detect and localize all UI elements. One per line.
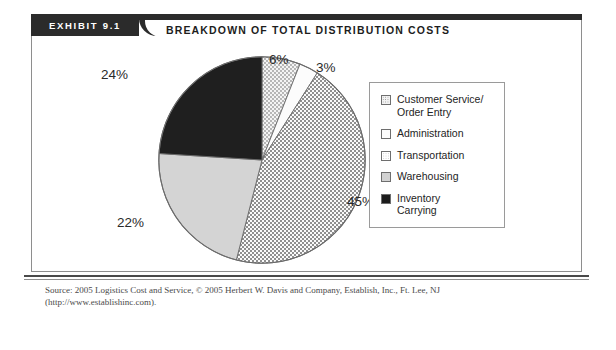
- pie-slices: [159, 57, 365, 263]
- legend-swatch-inventory-carrying-icon: [381, 194, 391, 204]
- legend-label-administration: Administration: [397, 127, 464, 140]
- pie-label-inventory-carrying: 24%: [101, 67, 128, 82]
- exhibit-tab-label: EXHIBIT 9.1: [49, 20, 121, 31]
- pie-slice: [159, 57, 262, 160]
- legend-swatch-administration-icon: [381, 129, 391, 139]
- legend-label-transportation: Transportation: [397, 149, 464, 162]
- chart-legend: Customer Service/ Order Entry Administra…: [369, 82, 505, 228]
- exhibit-bottom-rule-thin: [24, 279, 589, 280]
- legend-item: Administration: [381, 127, 504, 140]
- pie-chart: [156, 54, 368, 266]
- legend-swatch-warehousing-icon: [381, 172, 391, 182]
- pie-label-administration: 3%: [316, 60, 336, 75]
- legend-item: Inventory Carrying: [381, 192, 504, 217]
- chart-area: 6% 3% 45% 22% 24% Customer Service/ Orde…: [31, 44, 582, 266]
- pie-label-customer-service: 6%: [269, 52, 289, 67]
- exhibit-title: BREAKDOWN OF TOTAL DISTRIBUTION COSTS: [166, 24, 450, 36]
- exhibit-tab: EXHIBIT 9.1: [31, 14, 139, 36]
- pie-label-warehousing: 22%: [117, 215, 144, 230]
- legend-swatch-transportation-icon: [381, 151, 391, 161]
- legend-item: Customer Service/ Order Entry: [381, 93, 504, 118]
- legend-label-inventory-carrying: Inventory Carrying: [397, 192, 440, 217]
- pie-chart-svg: [156, 54, 368, 266]
- legend-swatch-customer-service-icon: [381, 95, 391, 105]
- legend-item: Warehousing: [381, 170, 504, 183]
- legend-label-warehousing: Warehousing: [397, 170, 458, 183]
- legend-item: Transportation: [381, 149, 504, 162]
- exhibit-bottom-rule-thick: [24, 275, 589, 277]
- legend-label-customer-service: Customer Service/ Order Entry: [397, 93, 483, 118]
- source-note: Source: 2005 Logistics Cost and Service,…: [45, 284, 545, 308]
